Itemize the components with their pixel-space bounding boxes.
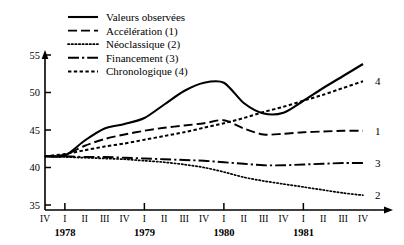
series-end-label: 2 [375,189,381,201]
data-series-group [45,64,363,195]
x-year-label: 1979 [134,227,155,238]
legend-label-1: Valeurs observées [106,11,185,23]
y-axis: 3540455055 [30,50,52,211]
x-tick-label: I [222,214,225,224]
y-tick-label: 35 [30,200,41,211]
legend-label-5: Chronologique (4) [106,65,188,78]
y-tick-label: 55 [30,50,41,61]
legend-label-4: Financement (3) [106,52,179,65]
x-tick-label: IV [199,214,209,224]
x-tick-label: III [100,214,110,224]
series-end-label: 4 [375,75,381,87]
series-line-1 [45,64,363,157]
series-end-label: 3 [375,157,381,169]
x-year-label: 1980 [213,227,234,238]
x-tick-label: III [259,214,269,224]
x-tick-label: II [82,214,88,224]
y-tick-label: 40 [30,162,41,173]
x-tick-label: I [63,214,66,224]
series-end-labels: 1234 [375,75,381,201]
y-tick-label: 45 [30,125,41,136]
x-axis-arrow-icon [384,207,393,214]
x-tick-label: IV [119,214,129,224]
x-axis-ticks [65,203,304,210]
series-line-2 [45,120,363,156]
x-year-label: 1978 [54,227,75,238]
x-tick-label: I [143,214,146,224]
x-tick-label: I [302,214,305,224]
x-year-label: 1981 [293,227,314,238]
series-line-4 [45,156,363,165]
x-tick-label: II [161,214,167,224]
legend-label-3: Néoclassique (2) [106,38,181,51]
x-axis-year-labels: 1978197919801981 [54,227,314,238]
x-tick-label: II [320,214,326,224]
line-chart: Valeurs observéesAccélération (1)Néoclas… [0,0,404,245]
x-tick-label: III [179,214,189,224]
x-tick-label: IV [358,214,368,224]
y-tick-label: 50 [30,87,41,98]
x-tick-label: III [338,214,348,224]
x-tick-label: II [241,214,247,224]
series-end-label: 1 [375,125,381,137]
series-line-3 [45,156,363,195]
chart-container: Valeurs observéesAccélération (1)Néoclas… [0,0,404,245]
x-axis-tick-labels: IVIIIIIIIVIIIIIIIVIIIIIIIVIIIIIIIV [40,214,368,224]
x-tick-label: IV [278,214,288,224]
legend-label-2: Accélération (1) [106,25,178,38]
y-axis-ticks: 3540455055 [30,50,52,211]
x-tick-label: IV [40,214,50,224]
x-axis: IVIIIIIIIVIIIIIIIVIIIIIIIVIIIIIIIV 19781… [40,203,393,238]
chart-legend: Valeurs observéesAccélération (1)Néoclas… [68,11,188,78]
